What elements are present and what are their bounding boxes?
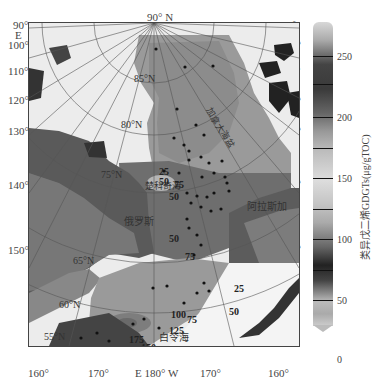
colorbar-tick <box>313 209 333 210</box>
contour-label: 100 <box>171 309 186 320</box>
colorbar-label-150: 150 <box>337 173 352 184</box>
contour-label: 50 <box>86 345 96 347</box>
contour-label: 75 <box>187 314 197 325</box>
left-axis-150: 150° <box>8 245 29 256</box>
left-axis-100: 100° <box>8 40 29 51</box>
colorbar <box>313 22 333 326</box>
lat-label-80: 80°N <box>121 119 142 130</box>
contour-label: 50 <box>229 306 239 317</box>
left-axis-120: 120° <box>8 95 29 106</box>
region-label-russia: 俄罗斯 <box>124 213 154 228</box>
colorbar-title: 类异戊二烯GDGTs(μg/gTOC) <box>357 134 372 260</box>
colorbar-label-250: 250 <box>337 51 352 62</box>
colorbar-min-arrow <box>313 325 333 332</box>
contour-label: 125 <box>169 325 184 336</box>
colorbar-label-0: 0 <box>337 354 342 365</box>
colorbar-tick <box>313 117 333 118</box>
colorbar-tick <box>313 56 333 57</box>
region-label-alaska: 阿拉斯加 <box>247 198 287 213</box>
contour-label: 75 <box>185 251 195 262</box>
colorbar-tick <box>313 84 333 85</box>
contour-label: 50 <box>159 176 169 187</box>
bottom-axis-160e: 160° <box>28 368 49 379</box>
colorbar-label-100: 100 <box>337 234 352 245</box>
colorbar-label-50: 50 <box>337 295 347 306</box>
lat-label-75: 75°N <box>101 169 122 180</box>
contour-label: 25 <box>234 283 244 294</box>
lat-label-85: 85°N <box>134 73 155 84</box>
left-axis-140: 140° <box>8 180 29 191</box>
map-panel: 85°N 80°N 75°N 65°N 60°N 55°N 加拿大海盆 楚科奇海… <box>28 22 300 347</box>
bottom-axis-170w: 170° <box>200 368 221 379</box>
contour-label: 50 <box>169 191 179 202</box>
colorbar-tick <box>313 300 333 301</box>
contour-label: 75 <box>174 179 184 190</box>
colorbar-tick <box>313 178 333 179</box>
colorbar-tick <box>313 148 333 149</box>
lat-label-55: 55°N <box>44 331 65 342</box>
contour-label: 50 <box>169 233 179 244</box>
left-axis-110: 110° <box>8 66 29 77</box>
lat-label-65: 65°N <box>73 255 94 266</box>
colorbar-label-200: 200 <box>337 112 352 123</box>
colorbar-tick <box>313 239 333 240</box>
bottom-axis-180: E 180° W <box>135 368 178 379</box>
bottom-axis-170e: 170° <box>88 368 109 379</box>
lat-label-60: 60°N <box>59 299 80 310</box>
bottom-axis-160w: 160° <box>268 368 289 379</box>
contour-label: 150 <box>141 342 156 347</box>
colorbar-tick <box>313 270 333 271</box>
left-axis-130: 130° <box>8 126 29 137</box>
